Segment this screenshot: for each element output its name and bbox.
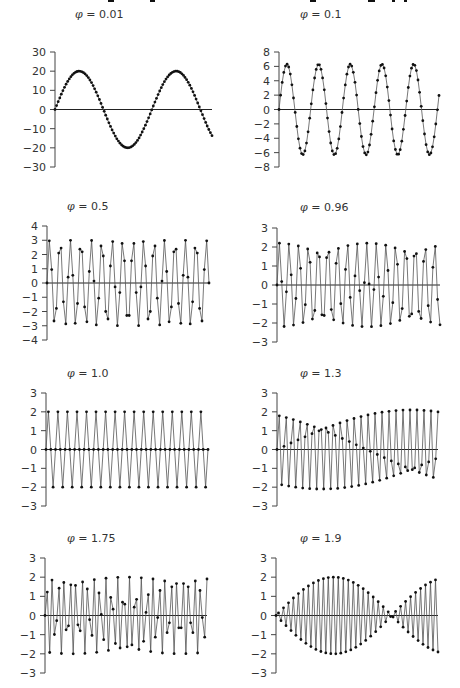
data-point <box>391 301 394 304</box>
data-point <box>144 124 147 127</box>
data-point <box>300 638 303 641</box>
y-tick-label: 3 <box>261 222 268 235</box>
data-point <box>107 318 110 321</box>
data-point <box>66 410 69 413</box>
data-point <box>126 645 129 648</box>
data-point <box>104 410 107 413</box>
data-point <box>152 410 155 413</box>
data-point <box>370 325 373 328</box>
data-point <box>302 321 305 324</box>
data-point <box>320 428 323 431</box>
data-point <box>368 283 371 286</box>
data-point <box>114 410 117 413</box>
data-point <box>135 598 138 601</box>
data-point <box>125 314 128 317</box>
data-point <box>299 267 302 270</box>
data-point <box>308 117 311 120</box>
data-point <box>83 306 86 309</box>
data-point <box>416 409 419 412</box>
data-point <box>359 643 362 646</box>
data-point <box>313 77 316 80</box>
data-point <box>404 600 407 603</box>
data-point <box>182 582 185 585</box>
data-point <box>328 130 331 133</box>
data-point <box>67 276 70 279</box>
data-point <box>427 646 430 649</box>
data-point <box>281 81 284 84</box>
data-point <box>87 76 90 79</box>
data-point <box>130 448 133 451</box>
data-point <box>149 650 152 653</box>
data-point <box>46 282 49 285</box>
y-tick-label: 2 <box>263 89 270 102</box>
data-point <box>287 66 290 69</box>
data-point <box>92 448 95 451</box>
y-tick-label: −3 <box>252 336 268 349</box>
data-point <box>116 448 119 451</box>
panel-title: φ = 1.0 <box>67 367 108 380</box>
data-point <box>65 83 68 86</box>
data-point <box>149 310 152 313</box>
data-point <box>344 650 347 653</box>
data-point <box>334 152 337 155</box>
data-point <box>318 256 321 259</box>
data-point <box>280 280 283 283</box>
data-point <box>316 252 319 255</box>
data-point <box>169 448 172 451</box>
data-point <box>301 487 304 490</box>
data-point <box>311 432 314 435</box>
data-point <box>353 417 356 420</box>
data-point <box>417 310 420 313</box>
phi-value: = 1.3 <box>308 367 342 380</box>
data-point <box>188 84 191 87</box>
data-point <box>350 485 353 488</box>
data-point <box>123 603 126 606</box>
data-point <box>383 456 386 459</box>
data-point <box>423 133 426 136</box>
data-point <box>145 611 148 614</box>
data-point <box>276 284 279 287</box>
data-point <box>203 636 206 639</box>
data-point <box>128 576 131 579</box>
data-point <box>406 469 409 472</box>
data-point <box>198 307 201 310</box>
data-point <box>190 87 193 90</box>
chart-panel-phi-1-0: 3210−1−2−3 <box>21 387 210 513</box>
data-point <box>364 639 367 642</box>
data-point <box>177 302 180 305</box>
y-tick-label: −6 <box>254 147 270 160</box>
data-point <box>133 410 136 413</box>
data-point <box>80 486 83 489</box>
phi-value: = 1.0 <box>75 367 109 380</box>
data-point <box>309 261 312 264</box>
data-point <box>402 626 405 629</box>
data-point <box>287 243 290 246</box>
data-point <box>198 106 201 109</box>
data-point <box>57 100 60 103</box>
data-point <box>62 581 65 584</box>
data-point <box>310 645 313 648</box>
data-point <box>98 98 101 101</box>
data-point <box>194 580 197 583</box>
data-point <box>168 621 171 624</box>
data-point <box>67 624 70 627</box>
data-point <box>339 302 342 305</box>
data-point <box>61 486 64 489</box>
y-tick-label: 0 <box>39 104 46 117</box>
data-point <box>111 240 114 243</box>
data-point <box>154 101 157 104</box>
data-point <box>74 584 77 587</box>
data-point <box>297 137 300 140</box>
data-point <box>93 280 96 283</box>
data-point <box>46 591 49 594</box>
y-tick-label: −2 <box>21 481 37 494</box>
data-point <box>69 239 72 242</box>
data-point <box>346 73 349 76</box>
data-point <box>364 483 367 486</box>
data-point <box>342 97 345 100</box>
data-point <box>381 63 384 66</box>
data-point <box>367 414 370 417</box>
y-tick-label: −1 <box>20 629 36 642</box>
data-point <box>373 105 376 108</box>
data-point <box>420 105 423 108</box>
